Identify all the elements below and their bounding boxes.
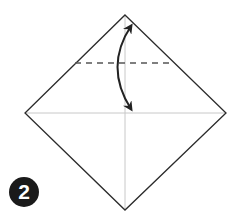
- step-number-badge: 2: [9, 177, 39, 207]
- paper-square: [25, 15, 226, 210]
- fold-arrow-icon: [118, 26, 132, 109]
- step-number: 2: [18, 180, 30, 204]
